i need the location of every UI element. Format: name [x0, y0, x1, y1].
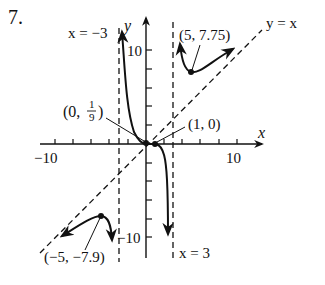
point-5-7-75	[188, 69, 194, 75]
leader-neg5-neg7-9	[85, 218, 100, 250]
svg-text:): )	[98, 103, 103, 121]
rational-function-graph: y x −10 10 10 −10 x = −3 x = 3 y = x (0,…	[0, 0, 325, 285]
asymptote-label-x-neg3: x = −3	[68, 25, 107, 41]
leader-1-0	[157, 127, 185, 142]
leader-0-1-9	[106, 118, 144, 141]
point-neg5-neg7-9	[98, 213, 104, 219]
x-tick-label-10: 10	[226, 150, 241, 166]
point-label-1-0: (1, 0)	[188, 116, 221, 133]
svg-text:1: 1	[89, 98, 95, 110]
curve-left-branch	[62, 216, 112, 240]
point-label-0-1-9: (0, 1 9 )	[63, 98, 103, 123]
y-axis	[146, 18, 152, 258]
y-axis-label: y	[122, 17, 132, 35]
svg-text:(0,: (0,	[63, 103, 80, 121]
svg-text:9: 9	[89, 111, 95, 123]
asymptote-label-x-3: x = 3	[179, 245, 210, 261]
x-tick-label-neg10: −10	[34, 150, 57, 166]
point-label-neg5-neg7-9: (−5, −7.9)	[44, 249, 105, 266]
leader-5-7-75	[192, 45, 200, 70]
asymptote-label-y-eq-x: y = x	[266, 15, 297, 31]
x-axis-label: x	[257, 124, 265, 141]
point-label-5-7-75: (5, 7.75)	[179, 27, 230, 44]
y-tick-label-neg10: −10	[117, 230, 140, 246]
y-tick-label-10: 10	[127, 43, 142, 59]
curve-middle-branch	[122, 32, 168, 234]
